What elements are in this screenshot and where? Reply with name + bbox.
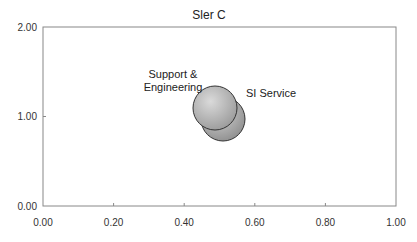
- label-support-line2: Engineering: [144, 81, 203, 93]
- y-axis: 2.00 1.00 0.00: [18, 22, 46, 212]
- svg-text:0.60: 0.60: [245, 217, 265, 228]
- svg-text:0.00: 0.00: [33, 217, 53, 228]
- label-si-service: SI Service: [246, 87, 296, 99]
- svg-text:2.00: 2.00: [18, 22, 38, 33]
- svg-text:1.00: 1.00: [386, 217, 406, 228]
- chart-title: Sler C: [192, 8, 226, 22]
- svg-text:0.00: 0.00: [18, 201, 38, 212]
- svg-text:0.80: 0.80: [316, 217, 336, 228]
- bubble-chart: Sler C 2.00 1.00 0.00 0.00 0.20 0.40 0.6…: [0, 0, 417, 242]
- label-support-line1: Support &: [149, 68, 199, 80]
- svg-text:1.00: 1.00: [18, 111, 38, 122]
- svg-text:0.40: 0.40: [174, 217, 194, 228]
- svg-text:0.20: 0.20: [104, 217, 124, 228]
- x-axis: 0.00 0.20 0.40 0.60 0.80 1.00: [33, 203, 406, 228]
